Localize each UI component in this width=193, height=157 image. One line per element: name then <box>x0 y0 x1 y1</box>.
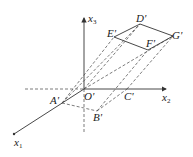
point-A-label: A' <box>49 94 60 106</box>
point-E-label: E' <box>106 27 117 39</box>
point-G-label: G' <box>172 29 183 41</box>
edge-E-D <box>114 24 140 37</box>
x3-axis-label: x3 <box>87 12 97 26</box>
x1-axis-label: x1 <box>13 136 23 150</box>
point-O-label: O' <box>84 90 95 102</box>
point-F-label: F' <box>145 37 156 49</box>
edge-D-G <box>140 24 173 36</box>
point-C-label: C' <box>124 90 134 102</box>
point-B-label: B' <box>93 111 103 123</box>
x1-axis-end-dot <box>13 133 15 135</box>
point-D-label: D' <box>135 12 147 24</box>
x2-axis-label: x2 <box>161 91 171 105</box>
edge-A-B <box>62 103 97 111</box>
parallelepiped-diagram: x3 x2 x1 O' A' B' C' D' E' F' G' <box>0 0 193 157</box>
edge-F-E <box>114 37 148 50</box>
x1-axis <box>14 89 84 134</box>
edge-B-C <box>97 89 127 111</box>
edge-B-F <box>97 50 148 111</box>
